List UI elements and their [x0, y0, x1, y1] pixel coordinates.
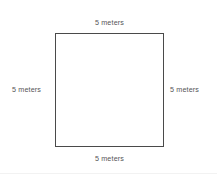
square-shape	[55, 33, 164, 147]
side-label-bottom: 5 meters	[0, 154, 217, 163]
bottom-divider	[0, 173, 217, 174]
side-label-top: 5 meters	[0, 18, 217, 27]
diagram-canvas: 5 meters 5 meters 5 meters 5 meters	[0, 0, 217, 178]
side-label-right: 5 meters	[170, 85, 199, 94]
side-label-left: 5 meters	[12, 85, 41, 94]
